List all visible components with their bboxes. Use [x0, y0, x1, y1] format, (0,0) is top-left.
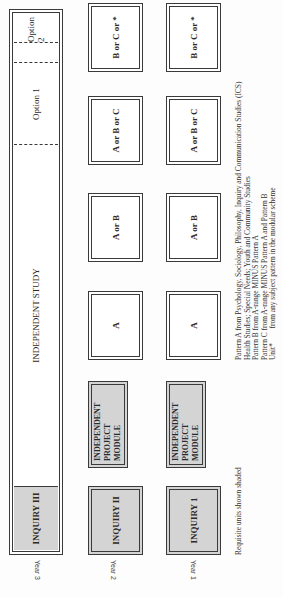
option-2-segment: Option 2: [14, 12, 58, 42]
cell-label: A: [189, 322, 199, 329]
cell-a-y2: A: [88, 291, 143, 360]
independent-project-module-box-y2: INDEPENDENT PROJECT MODULE: [88, 381, 128, 468]
option-1-label: Option 1: [31, 88, 41, 120]
inquiry-1-box: INQUIRY 1: [166, 486, 221, 555]
pattern-legend: Pattern A from Psychology, Sociology, Ph…: [235, 82, 278, 360]
cell-label: A or B or C: [111, 108, 121, 152]
cell-label: B or C or *: [111, 16, 121, 59]
option-2-label: Option 2: [26, 12, 46, 42]
independent-project-module-box-y1: INDEPENDENT PROJECT MODULE: [166, 381, 206, 468]
cell-a-or-b-or-c-y1: A or B or C: [166, 96, 221, 165]
inquiry-1-label: INQUIRY 1: [189, 497, 199, 543]
independent-project-module-label-y2: INDEPENDENT PROJECT MODULE: [93, 403, 123, 461]
year-3-row: INQUIRY III INDEPENDENT STUDY Option 1 O…: [9, 9, 63, 555]
cell-label: A or B or C: [189, 108, 199, 152]
cell-label: A or B: [189, 215, 199, 240]
cell-a-y1: A: [166, 291, 221, 360]
ipm-line-1: INDEPENDENT: [171, 403, 180, 461]
independent-study-label: INDEPENDENT STUDY: [31, 268, 41, 363]
year-label-3-wrap: Year 3: [30, 563, 44, 577]
cell-a-or-b-or-c-y2: A or B or C: [88, 96, 143, 165]
independent-study-segment: INDEPENDENT STUDY: [14, 145, 58, 487]
legend-line-5: Unit* from any subject pattern in the mo…: [269, 82, 278, 360]
dashed-divider: [14, 42, 58, 43]
cell-a-or-b-y1: A or B: [166, 193, 221, 262]
ipm-line-3: MODULE: [191, 425, 200, 461]
requisite-note: Requisite units shown shaded: [234, 467, 243, 555]
year-label-1: Year 1: [190, 560, 197, 580]
option-1-segment: Option 1: [14, 64, 58, 144]
independent-project-module-label-y1: INDEPENDENT PROJECT MODULE: [171, 403, 201, 461]
cell-b-or-c-or-star-y2: B or C or *: [88, 3, 143, 72]
cell-label: A or B: [111, 215, 121, 240]
cell-a-or-b-y2: A or B: [88, 193, 143, 262]
year-label-1-wrap: Year 1: [186, 563, 200, 577]
cell-label: A: [111, 322, 121, 329]
ipm-line-2: PROJECT: [181, 424, 190, 461]
module-structure-diagram: Year 3 Year 2 Year 1 INQUIRY III INDEPEN…: [0, 0, 283, 597]
ipm-line-3: MODULE: [113, 425, 122, 461]
year-label-2-wrap: Year 2: [106, 563, 120, 577]
ipm-line-2: PROJECT: [103, 424, 112, 461]
inquiry-ii-label: INQUIRY II: [111, 496, 121, 545]
inquiry-ii-box: INQUIRY II: [88, 486, 143, 555]
dashed-divider: [14, 62, 58, 63]
inquiry-iii-label: INQUIRY III: [31, 492, 41, 544]
dashed-divider: [14, 144, 58, 145]
ipm-line-1: INDEPENDENT: [93, 403, 102, 461]
cell-label: B or C or *: [189, 16, 199, 59]
cell-b-or-c-or-star-y1: B or C or *: [166, 3, 221, 72]
year-label-3: Year 3: [34, 560, 41, 580]
inquiry-iii-box: INQUIRY III: [14, 487, 58, 550]
year-label-2: Year 2: [110, 560, 117, 580]
